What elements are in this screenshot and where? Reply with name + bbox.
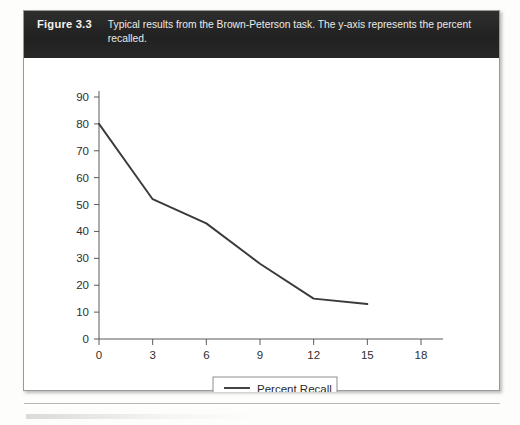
x-axis-tick-label: 9 xyxy=(257,349,263,361)
y-axis-tick-label: 80 xyxy=(76,118,89,130)
line-chart: 01020304050607080900369121518Percent Rec… xyxy=(24,58,501,392)
legend-entry-label: Percent Recall xyxy=(257,383,332,393)
x-axis-tick-label: 0 xyxy=(96,349,102,361)
y-axis-tick-label: 70 xyxy=(76,145,89,157)
x-axis-tick-label: 6 xyxy=(203,349,209,361)
figure-number: Figure 3.3 xyxy=(37,18,92,30)
figure-container: Figure 3.3 Typical results from the Brow… xyxy=(23,10,500,391)
data-series-line xyxy=(99,124,367,304)
y-axis-tick-label: 50 xyxy=(76,199,89,211)
y-axis-tick-label: 20 xyxy=(76,279,89,291)
figure-caption: Typical results from the Brown-Peterson … xyxy=(108,18,485,45)
y-axis-tick-label: 40 xyxy=(76,225,89,237)
chart-plot-area: 01020304050607080900369121518Percent Rec… xyxy=(24,58,499,392)
x-axis-tick-label: 3 xyxy=(149,349,155,361)
x-axis-tick-label: 15 xyxy=(361,349,374,361)
scan-artifact xyxy=(26,414,256,419)
y-axis-tick-label: 60 xyxy=(76,172,89,184)
y-axis-tick-label: 30 xyxy=(76,252,89,264)
figure-header-bar: Figure 3.3 Typical results from the Brow… xyxy=(24,11,499,58)
y-axis-tick-label: 10 xyxy=(76,306,89,318)
y-axis-tick-label: 90 xyxy=(76,91,89,103)
x-axis-tick-label: 18 xyxy=(415,349,428,361)
y-axis-tick-label: 0 xyxy=(83,333,89,345)
x-axis-tick-label: 12 xyxy=(307,349,320,361)
page-canvas: Figure 3.3 Typical results from the Brow… xyxy=(0,0,520,425)
page-horizontal-rule xyxy=(24,403,500,404)
